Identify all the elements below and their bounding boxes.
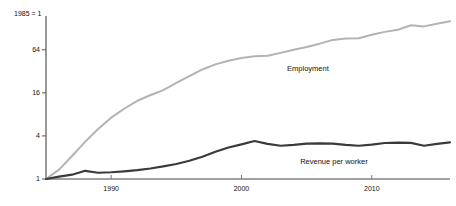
y-tick-label: 1 (18, 175, 40, 182)
axis-group (42, 16, 450, 179)
axis-normalization-note: 1985 = 1 (14, 10, 41, 17)
x-tick-label: 2010 (352, 185, 392, 192)
series-line-employment (46, 21, 450, 179)
x-tick-label: 1990 (91, 185, 131, 192)
series-line-revenue-per-worker (46, 141, 450, 179)
series-lines-group (46, 21, 450, 179)
y-tick-label: 64 (18, 46, 40, 53)
chart-plot-area (0, 0, 456, 206)
series-label-revenue-per-worker: Revenue per worker (300, 158, 368, 166)
y-tick-label: 16 (18, 89, 40, 96)
y-tick-label: 4 (18, 132, 40, 139)
series-label-employment: Employment (287, 65, 329, 73)
x-tick-label: 2000 (221, 185, 261, 192)
chart-container: 1985 = 1 141664 199020002010 EmploymentR… (0, 0, 456, 206)
